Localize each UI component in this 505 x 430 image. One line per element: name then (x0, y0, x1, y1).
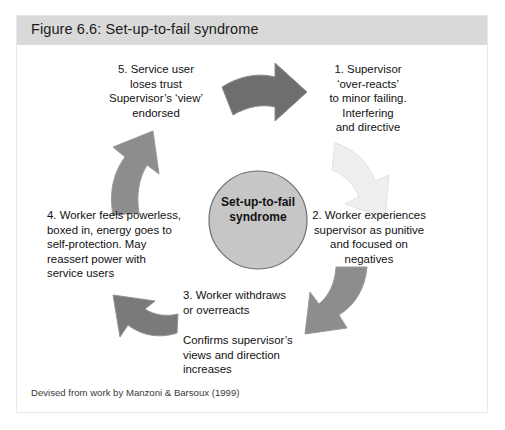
figure-header-band: Figure 6.6: Set-up-to-fail syndrome (17, 16, 487, 45)
step-5-text: 5. Service user loses trust Supervisor’s… (81, 62, 231, 120)
figure-card: Figure 6.6: Set-up-to-fail syndrome Set-… (16, 15, 488, 413)
cycle-diagram: Set-up-to-fail syndrome 1. Supervisor ‘o… (17, 45, 487, 375)
arrow-step-3-to-4 (113, 295, 178, 337)
arrow-step-1-to-2 (332, 143, 389, 218)
step-3-text: 3. Worker withdraws or overreacts (183, 288, 343, 317)
step-3-text-secondary: Confirms supervisor’s views and directio… (183, 333, 343, 377)
arrow-step-4-to-5 (112, 131, 160, 215)
step-4-text: 4. Worker feels powerless, boxed in, ene… (47, 208, 219, 281)
figure-source-note: Devised from work by Manzoni & Barsoux (… (31, 387, 239, 398)
step-2-text: 2. Worker experiences supervisor as puni… (289, 208, 449, 266)
figure-title: Figure 6.6: Set-up-to-fail syndrome (31, 21, 259, 37)
step-1-text: 1. Supervisor ‘over-reacts’ to minor fai… (293, 62, 443, 135)
